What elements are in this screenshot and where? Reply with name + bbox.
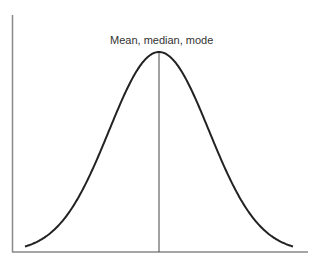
mean-median-mode-label: Mean, median, mode: [110, 34, 213, 46]
